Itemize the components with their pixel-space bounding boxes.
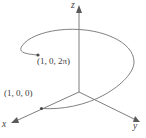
helix-base-point-label: (1, 0, 0) xyxy=(4,89,33,98)
x-axis-label: x xyxy=(2,120,6,130)
y-axis xyxy=(79,92,140,122)
y-axis-label: y xyxy=(133,122,137,132)
helix-figure: z x y (1, 0, 2π) (1, 0, 0) xyxy=(0,0,146,138)
x-axis-arrowhead xyxy=(11,117,19,123)
helix-top-point-label: (1, 0, 2π) xyxy=(37,57,70,66)
y-axis-line xyxy=(79,92,134,119)
z-axis-arrowhead xyxy=(76,5,82,13)
z-axis xyxy=(76,5,82,92)
helix-curve xyxy=(21,29,134,108)
z-axis-label: z xyxy=(71,1,75,11)
figure-canvas xyxy=(0,0,146,138)
helix-base-point-marker xyxy=(40,107,43,110)
